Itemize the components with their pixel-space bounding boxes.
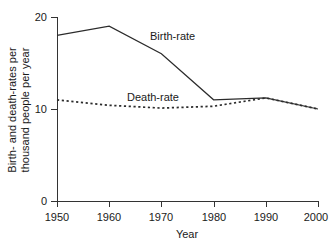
series-annotation-death-rate: Death-rate: [127, 91, 179, 103]
x-tick-label-1980: 1980: [202, 211, 226, 223]
chart-figure: 20 10 0 1950 1960 1970 1980 1990 2000 Ye…: [0, 0, 333, 243]
x-tick-label-1970: 1970: [149, 211, 173, 223]
x-tick-label-1950: 1950: [45, 211, 69, 223]
x-tick-label-1960: 1960: [97, 211, 121, 223]
y-axis-title-line2: thousand people per year: [19, 47, 31, 172]
y-axis-title-line1: Birth- and death-rates per: [6, 47, 18, 173]
y-tick-label-0: 0: [41, 195, 47, 207]
series-annotation-birth-rate: Birth-rate: [150, 30, 195, 42]
x-axis-title: Year: [176, 228, 199, 240]
x-tick-label-1990: 1990: [254, 211, 278, 223]
x-tick-label-2000: 2000: [304, 211, 328, 223]
line-chart: 20 10 0 1950 1960 1970 1980 1990 2000 Ye…: [0, 0, 333, 243]
y-tick-label-20: 20: [35, 11, 47, 23]
y-tick-label-10: 10: [35, 103, 47, 115]
